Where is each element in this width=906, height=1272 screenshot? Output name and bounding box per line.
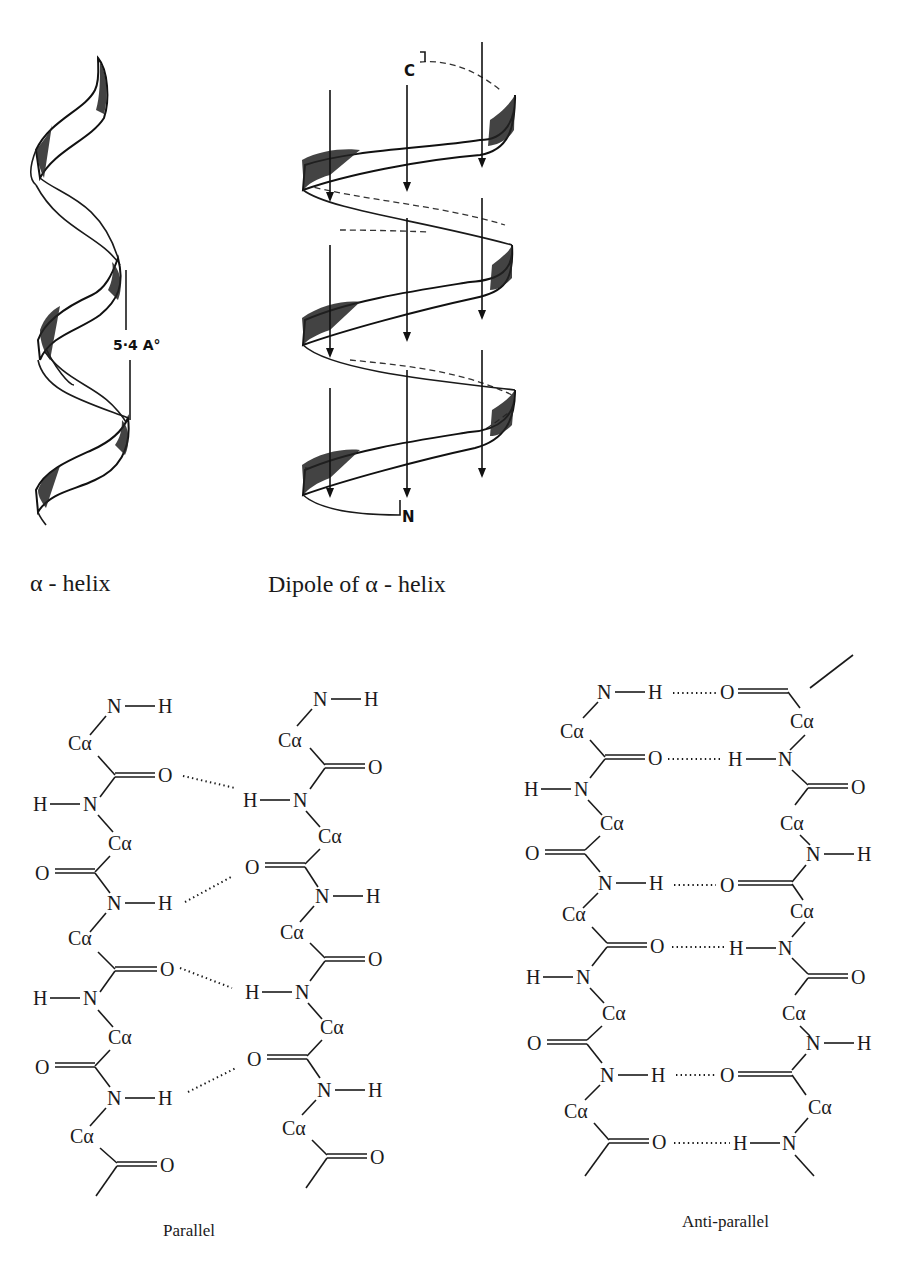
svg-text:Cα: Cα xyxy=(320,1016,344,1038)
svg-text:O: O xyxy=(247,1048,261,1070)
svg-text:H: H xyxy=(158,695,172,717)
svg-text:O: O xyxy=(368,948,382,970)
svg-text:N: N xyxy=(107,695,121,717)
svg-text:O: O xyxy=(851,776,865,798)
svg-text:N: N xyxy=(574,778,588,800)
svg-text:N: N xyxy=(313,688,327,710)
svg-text:O: O xyxy=(525,842,539,864)
svg-text:O: O xyxy=(650,935,664,957)
svg-text:H: H xyxy=(526,966,540,988)
parallel-right-strand: NH Cα O HN Cα O NH Cα O HN Cα xyxy=(243,688,384,1188)
svg-text:H: H xyxy=(728,748,742,770)
svg-text:Cα: Cα xyxy=(560,720,584,742)
svg-text:H: H xyxy=(33,987,47,1009)
svg-text:N: N xyxy=(782,1132,796,1154)
svg-text:O: O xyxy=(35,1056,49,1078)
svg-text:Cα: Cα xyxy=(278,729,302,751)
svg-text:O: O xyxy=(720,1064,734,1086)
svg-text:H: H xyxy=(729,937,743,959)
dipole-arrows xyxy=(326,42,486,498)
svg-text:N: N xyxy=(576,966,590,988)
svg-text:H: H xyxy=(857,1032,871,1054)
svg-text:N: N xyxy=(293,789,307,811)
svg-text:Cα: Cα xyxy=(564,1100,588,1122)
c-terminus-label: C xyxy=(404,62,415,80)
svg-text:H: H xyxy=(243,789,257,811)
svg-text:Cα: Cα xyxy=(790,710,814,732)
svg-text:Cα: Cα xyxy=(790,900,814,922)
parallel-left-strand: NH Cα O HN Cα O NH Cα O HN Cα xyxy=(33,695,174,1196)
svg-text:Cα: Cα xyxy=(108,1026,132,1048)
svg-text:N: N xyxy=(597,681,611,703)
svg-text:Cα: Cα xyxy=(68,732,92,754)
pitch-label: 5·4 A° xyxy=(113,337,161,353)
figure-canvas: 5·4 A° C xyxy=(0,0,906,1272)
svg-text:N: N xyxy=(806,843,820,865)
antiparallel-beta-sheet: NH Cα O HN Cα O NH Cα O HN Cα xyxy=(524,655,871,1176)
svg-text:Cα: Cα xyxy=(318,825,342,847)
svg-text:Cα: Cα xyxy=(780,812,804,834)
svg-text:O: O xyxy=(158,764,172,786)
antiparallel-left-strand: NH Cα O HN Cα O NH Cα O HN Cα xyxy=(524,681,666,1176)
svg-text:O: O xyxy=(35,862,49,884)
antiparallel-label: Anti-parallel xyxy=(682,1212,769,1231)
svg-text:Cα: Cα xyxy=(68,927,92,949)
svg-text:O: O xyxy=(160,958,174,980)
svg-text:O: O xyxy=(652,1131,666,1153)
svg-text:H: H xyxy=(648,681,662,703)
svg-text:Cα: Cα xyxy=(602,1002,626,1024)
svg-text:O: O xyxy=(370,1146,384,1168)
dipole-helix: C N xyxy=(302,42,515,526)
svg-text:N: N xyxy=(778,748,792,770)
dipole-helix-caption: Dipole of α - helix xyxy=(268,571,446,597)
svg-text:N: N xyxy=(315,885,329,907)
svg-text:H: H xyxy=(368,1079,382,1101)
svg-text:H: H xyxy=(158,892,172,914)
svg-text:H: H xyxy=(245,981,259,1003)
svg-text:Cα: Cα xyxy=(600,812,624,834)
svg-text:H: H xyxy=(364,688,378,710)
svg-text:O: O xyxy=(160,1154,174,1176)
clipped-figure-caption xyxy=(70,1258,850,1272)
parallel-hydrogen-bonds xyxy=(180,776,236,1092)
svg-text:N: N xyxy=(778,937,792,959)
svg-text:Cα: Cα xyxy=(70,1125,94,1147)
svg-text:N: N xyxy=(107,892,121,914)
svg-text:H: H xyxy=(366,885,380,907)
svg-text:Cα: Cα xyxy=(108,832,132,854)
svg-text:N: N xyxy=(295,981,309,1003)
svg-text:N: N xyxy=(600,1064,614,1086)
svg-text:H: H xyxy=(524,778,538,800)
svg-text:O: O xyxy=(648,747,662,769)
svg-text:N: N xyxy=(107,1087,121,1109)
svg-text:Cα: Cα xyxy=(280,921,304,943)
svg-text:Cα: Cα xyxy=(282,1117,306,1139)
svg-text:O: O xyxy=(720,874,734,896)
svg-text:N: N xyxy=(83,987,97,1009)
parallel-beta-sheet: NH Cα O HN Cα O NH Cα O HN Cα xyxy=(33,688,384,1196)
svg-text:H: H xyxy=(33,793,47,815)
svg-text:O: O xyxy=(368,756,382,778)
svg-text:O: O xyxy=(527,1032,541,1054)
svg-text:Cα: Cα xyxy=(808,1096,832,1118)
svg-text:Cα: Cα xyxy=(782,1002,806,1024)
svg-text:O: O xyxy=(245,856,259,878)
alpha-helix-ribbon: 5·4 A° xyxy=(31,58,161,525)
n-terminus-label: N xyxy=(402,508,415,526)
svg-text:H: H xyxy=(857,843,871,865)
parallel-label: Parallel xyxy=(163,1221,215,1240)
svg-text:H: H xyxy=(649,872,663,894)
svg-text:H: H xyxy=(651,1064,665,1086)
svg-text:N: N xyxy=(83,793,97,815)
antiparallel-right-strand: O Cα NH O Cα NH O Cα NH O Cα NH xyxy=(720,655,871,1176)
svg-text:N: N xyxy=(598,872,612,894)
alpha-helix-caption: α - helix xyxy=(30,570,111,596)
svg-text:H: H xyxy=(158,1087,172,1109)
svg-text:Cα: Cα xyxy=(562,903,586,925)
svg-text:H: H xyxy=(733,1132,747,1154)
svg-text:O: O xyxy=(720,681,734,703)
svg-text:N: N xyxy=(317,1079,331,1101)
svg-text:N: N xyxy=(806,1032,820,1054)
svg-text:O: O xyxy=(851,966,865,988)
